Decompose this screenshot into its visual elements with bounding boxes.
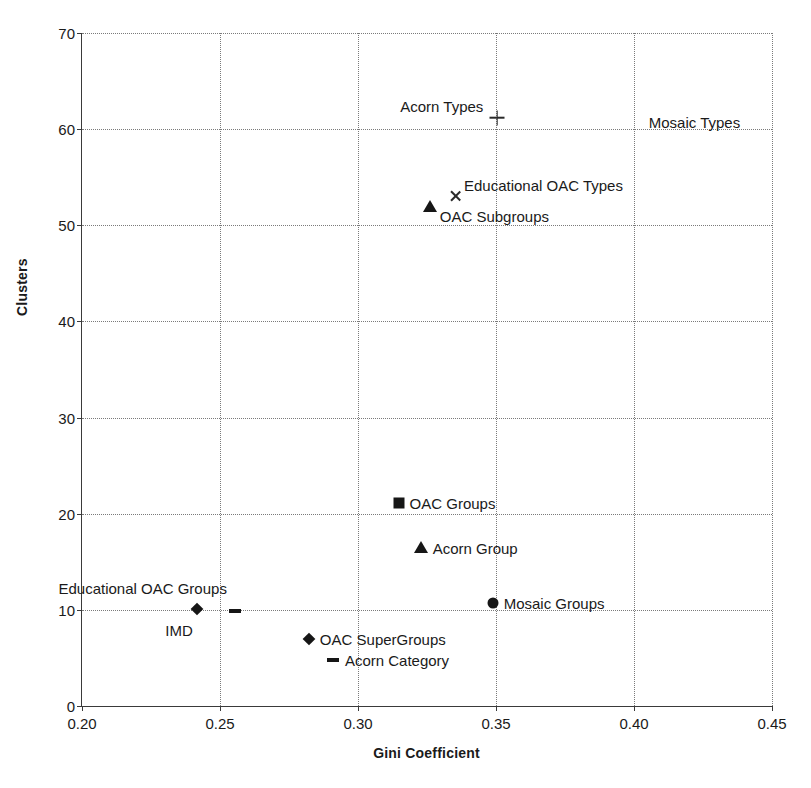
y-axis-tick-mark (77, 225, 82, 226)
x-axis-tick-mark (82, 706, 83, 711)
y-axis-tick-mark (77, 418, 82, 419)
y-axis-tick-mark (77, 321, 82, 322)
y-axis-tick-label: 30 (58, 409, 75, 426)
data-point-label: Acorn Group (433, 540, 518, 557)
gridline-vertical (772, 33, 773, 706)
marker-triangle-icon (423, 200, 437, 212)
gridline-horizontal (82, 321, 772, 322)
marker-plus-icon (490, 110, 505, 125)
marker-square-icon (393, 498, 404, 509)
y-axis-tick-label: 0 (67, 698, 75, 715)
x-axis-tick-label: 0.25 (205, 715, 234, 732)
gridline-horizontal (82, 610, 772, 611)
marker-cross-icon (449, 190, 462, 203)
x-axis-title: Gini Coefficient (81, 745, 772, 761)
marker-diamond-icon (190, 603, 203, 616)
x-axis-tick-label: 0.40 (619, 715, 648, 732)
data-point-label: OAC Subgroups (440, 208, 549, 225)
y-axis-tick-label: 10 (58, 601, 75, 618)
data-point-label: Acorn Category (345, 651, 449, 668)
gridline-vertical (634, 33, 635, 706)
gridline-horizontal (82, 225, 772, 226)
data-point-label: Educational OAC Types (464, 177, 623, 194)
marker-circle-icon (487, 598, 498, 609)
x-axis-tick-label: 0.45 (757, 715, 786, 732)
marker-triangle-icon (414, 541, 428, 553)
y-axis-tick-mark (77, 33, 82, 34)
plot-area: 0102030405060700.200.250.300.350.400.45A… (81, 33, 772, 707)
scatter-chart-figure: 0102030405060700.200.250.300.350.400.45A… (0, 0, 811, 788)
data-point-label: Mosaic Types (649, 114, 740, 131)
marker-dash-icon (327, 658, 339, 662)
data-point-label: Acorn Types (400, 97, 483, 114)
x-axis-tick-label: 0.30 (343, 715, 372, 732)
marker-diamond-icon (302, 632, 315, 645)
data-point-label: Educational OAC Groups (58, 579, 226, 596)
y-axis-tick-label: 60 (58, 121, 75, 138)
y-axis-tick-label: 70 (58, 25, 75, 42)
x-axis-tick-mark (496, 706, 497, 711)
gridline-vertical (358, 33, 359, 706)
x-axis-tick-mark (634, 706, 635, 711)
x-axis-tick-mark (772, 706, 773, 711)
x-axis-tick-mark (220, 706, 221, 711)
data-point-label: Mosaic Groups (504, 595, 605, 612)
data-point-label: OAC Groups (410, 495, 496, 512)
gridline-vertical (220, 33, 221, 706)
y-axis-tick-label: 50 (58, 217, 75, 234)
data-point-label: OAC SuperGroups (320, 630, 446, 647)
y-axis-title: Clusters (14, 258, 30, 316)
gridline-horizontal (82, 514, 772, 515)
y-axis-tick-label: 40 (58, 313, 75, 330)
y-axis-tick-mark (77, 514, 82, 515)
y-axis-tick-label: 20 (58, 505, 75, 522)
gridline-horizontal (82, 418, 772, 419)
gridline-horizontal (82, 33, 772, 34)
x-axis-tick-mark (358, 706, 359, 711)
marker-dash-icon (229, 609, 241, 613)
x-axis-tick-label: 0.20 (67, 715, 96, 732)
x-axis-tick-label: 0.35 (481, 715, 510, 732)
marker-cross-bold-icon (630, 115, 644, 129)
data-point-label: IMD (165, 621, 193, 638)
y-axis-tick-mark (77, 610, 82, 611)
y-axis-tick-mark (77, 129, 82, 130)
